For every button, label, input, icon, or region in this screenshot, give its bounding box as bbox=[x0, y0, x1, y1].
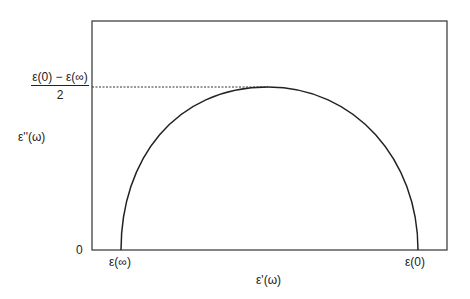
y-axis-label: ε''(ω) bbox=[18, 131, 45, 143]
x-left-label: ε(∞) bbox=[109, 256, 131, 268]
semicircle-curve bbox=[121, 87, 418, 250]
x-right-label: ε(0) bbox=[405, 256, 425, 268]
peak-label-denominator: 2 bbox=[31, 86, 89, 102]
diagram-canvas bbox=[0, 0, 470, 299]
plot-frame bbox=[92, 21, 447, 250]
y-origin-label: 0 bbox=[76, 244, 83, 256]
x-axis-label: ε'(ω) bbox=[256, 274, 281, 286]
peak-label-numerator: ε(0) − ε(∞) bbox=[31, 70, 89, 86]
peak-value-label: ε(0) − ε(∞) 2 bbox=[31, 70, 89, 102]
